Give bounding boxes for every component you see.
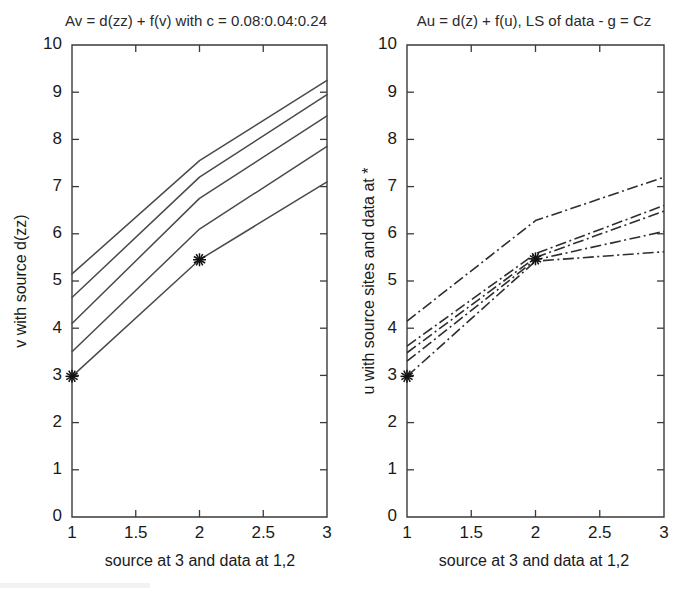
y-tick-label: 5 [388, 270, 397, 289]
y-tick-label: 9 [53, 82, 62, 101]
y-tick-label: 2 [53, 412, 62, 431]
x-tick-label: 1 [67, 523, 76, 542]
figure-canvas: Av = d(zz) + f(v) with c = 0.08:0.04:0.2… [0, 0, 684, 594]
y-tick-label: 8 [53, 129, 62, 148]
axis-box [407, 45, 664, 517]
y-tick-label: 2 [388, 412, 397, 431]
plot-title-right: Au = d(z) + f(u), LS of data - g = Cz [417, 12, 652, 29]
plot-svg-right: Au = d(z) + f(u), LS of data - g = Cz u … [352, 0, 684, 594]
x-tick-label: 2.5 [588, 523, 612, 542]
x-tick-label: 1 [402, 523, 411, 542]
y-tick-label: 3 [388, 365, 397, 384]
data-series-line [72, 116, 327, 324]
plot-panel-left: Av = d(zz) + f(v) with c = 0.08:0.04:0.2… [0, 0, 352, 594]
data-marker-asterisk [529, 252, 542, 265]
y-axis-label-left: v with source d(zz) [12, 214, 29, 347]
data-series-line [407, 231, 664, 361]
series-group-right [407, 177, 664, 376]
y-tick-label: 7 [388, 176, 397, 195]
data-series-line [72, 182, 327, 376]
data-series-line [72, 95, 327, 298]
plot-title-left: Av = d(zz) + f(v) with c = 0.08:0.04:0.2… [65, 12, 327, 29]
axis-box [72, 45, 327, 517]
y-tick-label: 7 [53, 176, 62, 195]
y-axis-label-left-text: v with source d(zz) [12, 214, 29, 347]
y-tick-label: 6 [388, 223, 397, 242]
x-axis-label-left: source at 3 and data at 1,2 [105, 552, 295, 569]
data-series-line [407, 252, 664, 377]
y-axis-label-right-text: u with source sites and data at * [360, 168, 377, 395]
axes-right: 01234567891011.522.53 [378, 34, 669, 542]
x-tick-label: 3 [322, 523, 331, 542]
axes-left: 01234567891011.522.53 [43, 34, 332, 542]
scan-artifact [0, 583, 150, 588]
series-group-left [72, 80, 327, 376]
plot-svg-left: Av = d(zz) + f(v) with c = 0.08:0.04:0.2… [0, 0, 352, 594]
x-axis-label-right: source at 3 and data at 1,2 [439, 552, 629, 569]
y-tick-label: 10 [378, 34, 397, 53]
y-axis-label-right: u with source sites and data at * [360, 168, 377, 395]
y-tick-label: 1 [388, 459, 397, 478]
plot-panel-right: Au = d(z) + f(u), LS of data - g = Cz u … [352, 0, 684, 594]
y-tick-label: 6 [53, 223, 62, 242]
y-tick-label: 8 [388, 129, 397, 148]
data-series-line [407, 177, 664, 321]
x-tick-label: 2.5 [251, 523, 275, 542]
y-tick-label: 0 [388, 506, 397, 525]
y-tick-label: 5 [53, 270, 62, 289]
y-tick-label: 10 [43, 34, 62, 53]
x-tick-label: 1.5 [124, 523, 148, 542]
x-tick-label: 1.5 [459, 523, 483, 542]
y-tick-label: 0 [53, 506, 62, 525]
x-tick-label: 3 [659, 523, 668, 542]
y-tick-label: 4 [388, 318, 397, 337]
y-tick-label: 9 [388, 82, 397, 101]
y-tick-label: 3 [53, 365, 62, 384]
x-tick-label: 2 [531, 523, 540, 542]
y-tick-label: 1 [53, 459, 62, 478]
y-tick-label: 4 [53, 318, 62, 337]
x-tick-label: 2 [195, 523, 204, 542]
